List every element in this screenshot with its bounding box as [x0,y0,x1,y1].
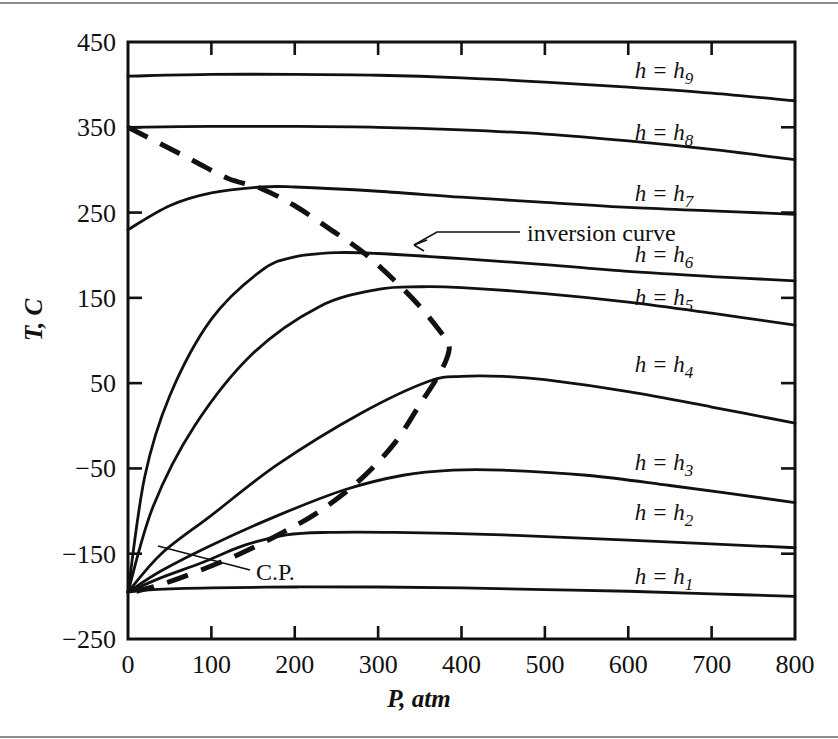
curve-h-h5 [128,287,795,592]
x-tick-label: 400 [442,650,481,679]
x-tick-label: 300 [359,650,398,679]
y-axis-tick-labels: −250−150−5050150250350450 [62,28,116,654]
y-tick-label: 50 [90,369,116,398]
curve-h-h8 [128,126,795,159]
curve-label-text: h = h9 [635,58,694,88]
curve-h-h6 [128,252,795,592]
inversion-curve-leader-line [414,232,520,245]
inversion-curve-leader-arrow [414,240,427,251]
curve-label-h4: h = h4 [635,352,694,382]
curve-label-h5: h = h5 [635,285,694,315]
page-rule-top [0,2,838,4]
y-tick-label: −150 [62,540,116,569]
isenthalp-curves [128,74,795,596]
plot-frame [128,42,795,639]
y-tick-label: −50 [75,454,116,483]
curve-h-h9 [128,74,795,101]
curve-label-text: h = h3 [635,450,694,480]
curve-label-h3: h = h3 [635,450,694,480]
page-rule-bottom [0,736,838,738]
x-tick-label: 0 [122,650,135,679]
curve-h-h1 [128,587,795,596]
figure-container: 0100200300400500600700800 −250−150−50501… [0,0,838,739]
curve-label-text: h = h4 [635,352,694,382]
curve-label-text: h = h5 [635,285,694,315]
curve-label-h7: h = h7 [635,181,695,211]
curve-label-h1: h = h1 [635,564,694,594]
x-tick-label: 200 [275,650,314,679]
y-axis-title: T, C [20,299,47,341]
curve-label-text: h = h2 [635,500,694,530]
curve-h-h7 [128,186,795,229]
y-tick-label: −250 [62,625,116,654]
y-tick-label: 350 [77,113,116,142]
y-tick-label: 250 [77,199,116,228]
curve-label-text: h = h6 [635,242,694,272]
curve-label-text: h = h7 [635,181,695,211]
x-tick-label: 100 [192,650,231,679]
x-axis-tick-labels: 0100200300400500600700800 [122,650,815,679]
y-tick-label: 450 [77,28,116,57]
curve-label-h2: h = h2 [635,500,694,530]
critical-point-label: C.P. [256,559,295,585]
curve-label-h6: h = h6 [635,242,694,272]
y-tick-label: 150 [77,284,116,313]
x-tick-label: 700 [692,650,731,679]
curve-h-h2 [128,532,795,592]
x-tick-label: 500 [525,650,564,679]
isenthalp-chart: 0100200300400500600700800 −250−150−50501… [0,0,838,739]
curve-label-h9: h = h9 [635,58,694,88]
curve-labels-group: h = h9h = h8h = h7h = h6h = h5h = h4h = … [635,58,695,594]
x-axis-title: P, atm [386,685,450,712]
curve-inversion-curve [128,127,449,591]
curve-h-h4 [128,376,795,592]
x-tick-label: 600 [609,650,648,679]
curve-label-text: h = h1 [635,564,694,594]
curve-h-h3 [128,469,795,592]
x-tick-label: 800 [776,650,815,679]
